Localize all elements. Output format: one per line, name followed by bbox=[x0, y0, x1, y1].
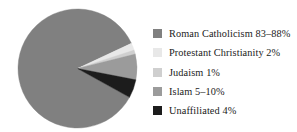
legend-swatch-judaism bbox=[153, 68, 162, 77]
legend-item-protestant-christianity: Protestant Christianity 2% bbox=[151, 43, 297, 62]
legend-item-roman-catholicism: Roman Catholicism 83–88% bbox=[151, 24, 297, 43]
pie-slice-group bbox=[18, 9, 137, 128]
legend-label-judaism: Judaism 1% bbox=[169, 67, 220, 78]
legend-label-unaffiliated: Unaffiliated 4% bbox=[169, 105, 236, 116]
legend-swatch-protestant-christianity bbox=[153, 48, 162, 57]
legend-swatch-islam bbox=[153, 87, 162, 96]
legend-item-islam: Islam 5–10% bbox=[151, 82, 297, 101]
pie-chart-graphic bbox=[0, 0, 150, 132]
chart-legend: Roman Catholicism 83–88% Protestant Chri… bbox=[151, 24, 297, 120]
legend-label-protestant-christianity: Protestant Christianity 2% bbox=[169, 47, 280, 58]
legend-label-islam: Islam 5–10% bbox=[169, 86, 225, 97]
legend-item-unaffiliated: Unaffiliated 4% bbox=[151, 101, 297, 120]
legend-swatch-unaffiliated bbox=[153, 106, 162, 115]
pie-svg bbox=[0, 0, 150, 132]
pie-chart-figure: Roman Catholicism 83–88% Protestant Chri… bbox=[0, 0, 297, 132]
legend-item-judaism: Judaism 1% bbox=[151, 63, 297, 82]
legend-swatch-roman-catholicism bbox=[153, 29, 162, 38]
legend-label-roman-catholicism: Roman Catholicism 83–88% bbox=[169, 28, 290, 39]
